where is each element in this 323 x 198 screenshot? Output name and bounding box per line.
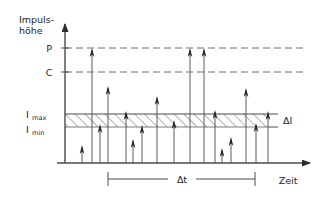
pulse-arrow bbox=[213, 110, 218, 163]
pulse-arrow bbox=[98, 124, 103, 163]
reference-levels bbox=[65, 48, 306, 72]
pulse-arrow bbox=[80, 145, 85, 163]
pulse-arrow bbox=[229, 137, 234, 163]
y-axis-label-line1: Impuls- bbox=[19, 14, 54, 25]
y-axis-label-line2: höhe bbox=[19, 25, 43, 36]
i-min-label-subscript: min bbox=[32, 129, 44, 137]
level-p-label: P bbox=[46, 43, 52, 54]
delta-i-dimension bbox=[268, 114, 278, 127]
pulse-arrow bbox=[124, 111, 129, 163]
pulse-arrow bbox=[266, 111, 271, 163]
i-max-label-subscript: max bbox=[32, 114, 46, 122]
i-min-label: I bbox=[26, 124, 29, 135]
pulse-arrow bbox=[140, 125, 145, 163]
diagram-canvas: Impuls- höhe P C I max I min ΔI Δt Zeit bbox=[0, 0, 323, 198]
pulse-arrow bbox=[188, 48, 193, 163]
pulse-arrow bbox=[254, 123, 259, 163]
level-c-label: C bbox=[46, 67, 53, 78]
plot-area bbox=[57, 24, 310, 187]
tolerance-band-hatch bbox=[65, 114, 268, 127]
impulse-height-diagram: Impuls- höhe P C I max I min ΔI Δt Zeit bbox=[0, 0, 323, 198]
pulse-arrow bbox=[202, 48, 207, 163]
axes bbox=[57, 24, 310, 163]
x-axis-label: Zeit bbox=[279, 175, 298, 186]
pulse-arrow bbox=[90, 48, 95, 163]
pulse-arrow bbox=[220, 148, 225, 163]
pulse-arrow bbox=[172, 120, 177, 163]
i-max-label: I bbox=[26, 109, 29, 120]
pulse-arrow bbox=[131, 139, 136, 163]
tolerance-band bbox=[65, 114, 268, 127]
delta-t-label: Δt bbox=[177, 174, 187, 185]
pulse-arrow bbox=[155, 96, 160, 163]
delta-i-label: ΔI bbox=[283, 115, 292, 126]
pulse-series bbox=[80, 48, 271, 163]
